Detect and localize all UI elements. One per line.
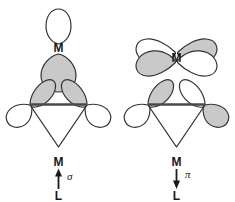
- ligand-left-outer-lobe: [124, 104, 150, 127]
- ligand-triangle-skeleton: [148, 105, 205, 147]
- ligand-right-outer-lobe: [85, 104, 111, 127]
- donation-arrow-up-icon: [55, 169, 62, 190]
- pi-symbol-label: π: [185, 168, 191, 180]
- legend-ligand-label: L: [173, 189, 180, 202]
- ligand-triangle-skeleton: [30, 105, 87, 147]
- ligand-left-inner-lobe: [148, 80, 174, 108]
- orbital-interaction-figure: M M σ L: [0, 0, 235, 202]
- ligand-left-outer-lobe: [6, 104, 32, 127]
- legend-metal-label: M: [54, 155, 64, 169]
- legend-ligand-label: L: [55, 189, 62, 202]
- panel-pi-backdonation: M M π L: [118, 0, 235, 202]
- ligand-left-inner-lobe: [30, 80, 56, 108]
- ligand-right-outer-lobe: [203, 104, 229, 127]
- sigma-symbol-label: σ: [67, 170, 73, 182]
- metal-orbital-upper-lobe: [46, 9, 71, 44]
- metal-orbital-label: M: [54, 41, 64, 55]
- metal-orbital-label: M: [172, 51, 182, 65]
- ligand-right-inner-lobe: [61, 80, 87, 108]
- panel-sigma-donation: M M σ L: [0, 0, 117, 202]
- legend-metal-label: M: [172, 155, 182, 169]
- backdonation-arrow-down-icon: [173, 169, 180, 189]
- ligand-right-inner-lobe: [179, 80, 205, 108]
